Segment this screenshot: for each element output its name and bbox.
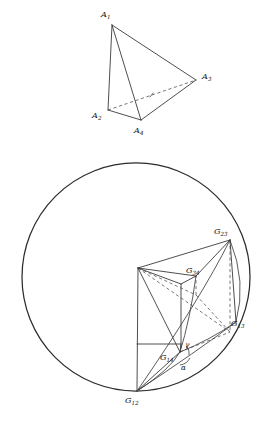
sphere-outline-circle [22,163,250,391]
gram-sphere-panel: G12 G13 G14 G23 G34 γ α [22,163,250,406]
point-label-g12: G12 [125,395,139,406]
angle-label-gamma: γ [185,340,190,349]
dashed-apex-to-back-bottom [138,268,230,332]
dashed-base-edge-right [196,295,230,332]
tetra-edge-a1-a3 [112,25,196,80]
tetra-edge-a3-a4 [141,80,196,120]
figure-canvas: A1 A2 A3 A4 [0,0,279,421]
angle-label-alpha: α [181,363,186,372]
point-label-g14: G14 [160,352,174,363]
geometry-figure: A1 A2 A3 A4 [0,0,279,421]
edge-g23-to-g13 [230,240,236,322]
tetrahedron-panel: A1 A2 A3 A4 [91,9,212,136]
tetra-edge-a1-a4 [112,25,141,120]
edge-front-top-to-g34 [181,276,196,284]
tetra-edge-a2-a4 [108,110,141,120]
edge-apex-to-g14 [138,268,180,352]
point-label-g23: G23 [214,226,228,237]
vertex-label-a3: A3 [201,71,212,82]
edge-apex-to-g12 [137,268,138,391]
vertex-label-a2: A2 [91,110,102,121]
point-label-g13: G13 [231,318,245,329]
vertex-label-a4: A4 [133,125,144,136]
vertex-label-a1: A1 [100,9,110,20]
tetra-edge-a1-a2 [108,25,112,110]
point-label-g34: G34 [186,265,200,276]
